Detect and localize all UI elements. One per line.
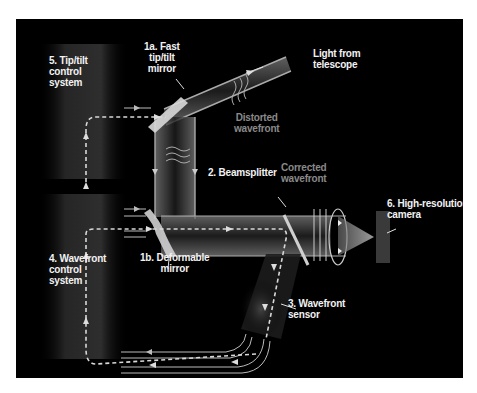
label-light-from-telescope: Light from telescope (313, 48, 360, 70)
label-distorted-wavefront: Distorted wavefront (234, 112, 279, 134)
label-fast-tip-tilt-mirror: 1a. Fast tip/tilt mirror (144, 41, 180, 74)
label-wavefront-control-system: 4. Wavefront control system (49, 253, 106, 286)
label-wavefront-sensor: 3. Wavefront sensor (288, 298, 345, 320)
diagram-panel: 5. Tip/tilt control system 1a. Fast tip/… (16, 19, 463, 378)
label-corrected-wavefront: Corrected wavefront (281, 162, 326, 184)
label-tip-tilt-control-system: 5. Tip/tilt control system (49, 55, 88, 88)
return-lines (121, 334, 270, 373)
label-beamsplitter: 2. Beamsplitter (208, 167, 277, 178)
main-beam (161, 216, 331, 256)
label-high-resolution-camera: 6. High-resolution camera (387, 198, 463, 220)
label-deformable-mirror: 1b. Deformable mirror (140, 252, 209, 274)
vertical-beam (155, 117, 195, 217)
focus-cone (338, 216, 374, 256)
